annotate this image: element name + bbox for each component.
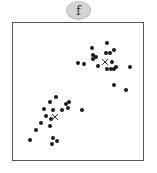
centroid-x-marker [102, 59, 108, 65]
data-point [90, 46, 94, 50]
data-point [108, 51, 112, 55]
data-point [54, 95, 58, 99]
data-point [112, 48, 116, 52]
data-point [42, 107, 46, 111]
centroid-x-marker [52, 114, 58, 120]
data-point [39, 121, 43, 125]
data-point [114, 65, 118, 69]
data-point [104, 51, 108, 55]
data-point [51, 136, 55, 140]
data-point [91, 57, 95, 61]
data-point [44, 114, 48, 118]
data-point [60, 108, 64, 112]
data-point [105, 41, 109, 45]
data-point [110, 60, 114, 64]
data-point [51, 108, 55, 112]
data-point [80, 108, 84, 112]
data-point [48, 100, 52, 104]
data-point [34, 128, 38, 132]
data-point [82, 62, 86, 66]
data-point [66, 106, 70, 110]
data-point [76, 61, 80, 65]
data-point [96, 64, 100, 68]
data-point [105, 67, 109, 71]
data-point [55, 139, 59, 143]
data-point [50, 142, 54, 146]
data-point [112, 83, 116, 87]
data-point [28, 138, 32, 142]
data-point [128, 65, 132, 69]
data-point [124, 88, 128, 92]
data-point [48, 124, 52, 128]
data-point [64, 102, 68, 106]
scatter-plot [0, 0, 157, 173]
